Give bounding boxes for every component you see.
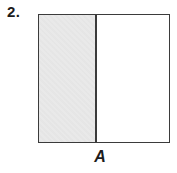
figure-label-a: A [88,148,112,166]
shaded-left-region [39,15,95,142]
unshaded-right-region [97,15,169,142]
partitioned-square [38,14,170,143]
worksheet-figure: 2. A [0,0,177,173]
problem-number: 2. [7,3,21,20]
